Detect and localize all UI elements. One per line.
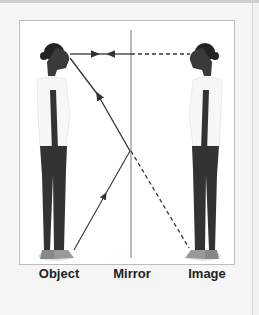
object-person — [37, 43, 74, 261]
image-label: Image — [188, 266, 226, 281]
object-label: Object — [39, 266, 79, 281]
ray-virtual-to-image-feet — [131, 151, 189, 248]
mirror-label: Mirror — [113, 266, 151, 281]
ray-reflected-upper — [70, 58, 98, 95]
ray-reflected-to-eye — [98, 95, 130, 151]
ray-incident-upper — [105, 151, 130, 195]
ray-incident-from-foot — [74, 195, 105, 250]
image-person — [185, 43, 222, 261]
